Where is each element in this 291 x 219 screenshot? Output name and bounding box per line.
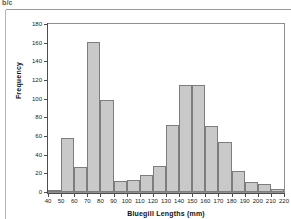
x-axis-tick bbox=[48, 194, 49, 197]
y-axis-tick bbox=[44, 99, 47, 100]
x-axis-tick bbox=[258, 194, 259, 197]
x-axis-tick-label: 190 bbox=[240, 198, 250, 204]
histogram-chart: 020406080100120140160180 Frequency 40506… bbox=[6, 11, 291, 219]
header-text-fragment: b/c bbox=[2, 0, 13, 6]
x-axis-tick-label: 170 bbox=[213, 198, 223, 204]
y-axis-tick-label: 80 bbox=[35, 114, 42, 120]
x-axis-tick-label: 160 bbox=[200, 198, 210, 204]
histogram-bar bbox=[271, 189, 284, 192]
histogram-bar bbox=[258, 184, 271, 192]
y-axis-tick-label: 100 bbox=[32, 96, 42, 102]
x-axis-tick bbox=[166, 194, 167, 197]
x-axis-tick bbox=[153, 194, 154, 197]
x-axis-tick bbox=[271, 194, 272, 197]
y-axis-tick bbox=[44, 80, 47, 81]
histogram-bar bbox=[245, 182, 258, 192]
y-axis-tick bbox=[44, 136, 47, 137]
x-axis-tick bbox=[114, 194, 115, 197]
plot-area bbox=[48, 24, 284, 192]
y-axis-tick-label: 120 bbox=[32, 77, 42, 83]
histogram-bar bbox=[74, 167, 87, 192]
y-axis-tick bbox=[44, 117, 47, 118]
x-axis-tick bbox=[140, 194, 141, 197]
y-axis-tick-labels: 020406080100120140160180 bbox=[6, 11, 42, 206]
x-axis-tick bbox=[179, 194, 180, 197]
x-axis-tick-label: 50 bbox=[58, 198, 65, 204]
y-axis-tick bbox=[44, 43, 47, 44]
x-axis-tick-label: 130 bbox=[161, 198, 171, 204]
y-axis-tick-label: 20 bbox=[35, 170, 42, 176]
histogram-bar bbox=[127, 180, 140, 192]
y-axis-tick-label: 60 bbox=[35, 133, 42, 139]
x-axis-tick-label: 80 bbox=[97, 198, 104, 204]
x-axis-title: Bluegill Lengths (mm) bbox=[47, 210, 285, 217]
x-axis-tick bbox=[284, 194, 285, 197]
y-axis-tick-label: 0 bbox=[39, 189, 42, 195]
x-axis-tick-label: 210 bbox=[266, 198, 276, 204]
y-axis-tick bbox=[44, 24, 47, 25]
histogram-bar bbox=[48, 190, 61, 192]
y-axis-tick-label: 180 bbox=[32, 21, 42, 27]
histogram-bar bbox=[166, 125, 179, 192]
histogram-bar bbox=[100, 100, 113, 192]
x-axis-tick-label: 180 bbox=[227, 198, 237, 204]
x-axis-tick bbox=[205, 194, 206, 197]
x-axis-tick-label: 120 bbox=[148, 198, 158, 204]
x-axis-tick-label: 110 bbox=[135, 198, 145, 204]
x-axis-tick bbox=[61, 194, 62, 197]
x-axis-tick bbox=[232, 194, 233, 197]
histogram-bar bbox=[218, 142, 231, 192]
y-axis-title: Frequency bbox=[15, 51, 22, 111]
histogram-bar bbox=[179, 85, 192, 192]
x-axis-tick-label: 60 bbox=[71, 198, 78, 204]
x-axis-tick-label: 70 bbox=[84, 198, 91, 204]
x-axis-tick bbox=[74, 194, 75, 197]
x-axis-tick bbox=[218, 194, 219, 197]
histogram-bar bbox=[61, 138, 74, 192]
x-axis-tick-label: 40 bbox=[45, 198, 52, 204]
x-axis-tick bbox=[87, 194, 88, 197]
x-axis-tick-label: 140 bbox=[174, 198, 184, 204]
x-axis-tick bbox=[245, 194, 246, 197]
histogram-bar bbox=[192, 85, 205, 192]
x-axis-tick-label: 100 bbox=[122, 198, 132, 204]
histogram-bar bbox=[87, 42, 100, 192]
y-axis-tick-label: 140 bbox=[32, 58, 42, 64]
y-axis-tick bbox=[44, 61, 47, 62]
x-axis-tick bbox=[127, 194, 128, 197]
histogram-bar bbox=[140, 175, 153, 192]
histogram-bar bbox=[232, 171, 245, 192]
y-axis-line bbox=[47, 23, 48, 193]
y-axis-tick bbox=[44, 155, 47, 156]
x-axis-tick bbox=[192, 194, 193, 197]
x-axis-tick bbox=[100, 194, 101, 197]
x-axis-tick-label: 220 bbox=[279, 198, 289, 204]
bar-series bbox=[48, 24, 284, 192]
y-axis-tick-label: 160 bbox=[32, 40, 42, 46]
x-axis-tick-label: 200 bbox=[253, 198, 263, 204]
histogram-bar bbox=[205, 126, 218, 192]
histogram-bar bbox=[153, 166, 166, 192]
x-axis-tick-label: 150 bbox=[187, 198, 197, 204]
header-divider bbox=[6, 9, 291, 10]
histogram-bar bbox=[114, 181, 127, 192]
x-axis-tick-label: 90 bbox=[110, 198, 117, 204]
page-canvas: b/c 020406080100120140160180 Frequency 4… bbox=[0, 0, 291, 219]
y-axis-tick-label: 40 bbox=[35, 152, 42, 158]
y-axis-tick bbox=[44, 173, 47, 174]
